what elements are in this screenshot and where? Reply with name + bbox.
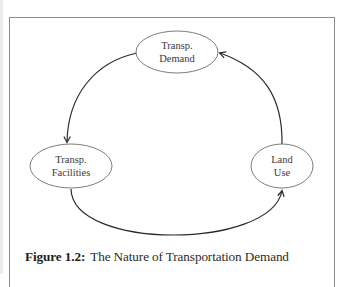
- node-label-line-2: Use: [274, 167, 291, 178]
- arrow-land-use-to-demand: [220, 53, 282, 145]
- figure-number: Figure 1.2:: [25, 249, 85, 264]
- node-label-line-2: Demand: [159, 53, 195, 64]
- figure-title: The Nature of Transportation Demand: [90, 249, 289, 264]
- node-label-line-2: Facilities: [52, 167, 91, 178]
- node-label-line-1: Land: [271, 154, 293, 165]
- node-label-line-1: Transp.: [161, 40, 192, 51]
- node-label-line-1: Transp.: [55, 154, 86, 165]
- node-transp-facilities: Transp. Facilities: [30, 144, 112, 188]
- arrow-demand-to-facilities: [67, 53, 137, 142]
- node-transp-demand: Transp. Demand: [136, 31, 218, 73]
- arrow-facilities-to-land-use: [71, 189, 282, 235]
- node-land-use: Land Use: [251, 144, 313, 188]
- figure-caption: Figure 1.2:The Nature of Transportation …: [25, 249, 289, 265]
